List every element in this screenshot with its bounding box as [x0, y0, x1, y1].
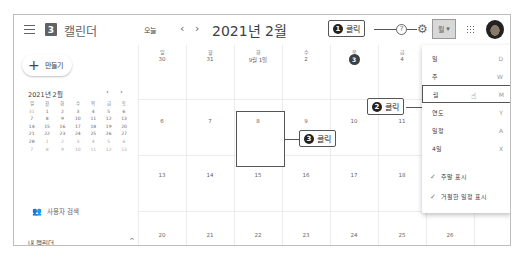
mini-day[interactable]: 7: [24, 115, 39, 123]
mini-day[interactable]: 26: [101, 130, 116, 138]
mini-weekday: 일: [24, 100, 39, 108]
menu-item-day[interactable]: 일 D: [422, 49, 511, 67]
search-people-button[interactable]: 👥 사용자 검색: [32, 206, 79, 216]
check-icon: ✓: [430, 193, 436, 201]
mini-day[interactable]: 5: [101, 108, 116, 116]
date-cell[interactable]: 7: [186, 118, 234, 124]
mini-day[interactable]: 9: [55, 115, 70, 123]
date-cell[interactable]: 18: [378, 172, 426, 178]
date-cell[interactable]: 8: [234, 118, 282, 124]
date-cell[interactable]: 23: [282, 232, 330, 238]
calendar-window: 3 캘린더 오늘 ‹ › 2021년 2월 1 클릭 ? ⚙ 월 ▾ + 만들기…: [13, 14, 511, 246]
mini-day[interactable]: 23: [55, 130, 70, 138]
show-declined-toggle[interactable]: ✓ 거절한 일정 표시: [430, 192, 511, 201]
date-cell[interactable]: 15: [234, 172, 282, 178]
date-cell[interactable]: 20: [138, 232, 186, 238]
create-button[interactable]: + 만들기: [22, 54, 72, 76]
help-icon[interactable]: ?: [396, 24, 407, 35]
menu-item-schedule[interactable]: 일정 A: [422, 121, 511, 139]
mini-day[interactable]: 4: [86, 108, 101, 116]
mini-day[interactable]: 19: [101, 123, 116, 131]
mini-day[interactable]: 20: [116, 123, 131, 131]
mini-day[interactable]: 27: [116, 130, 131, 138]
mini-day[interactable]: 6: [116, 138, 131, 146]
date-cell[interactable]: 21: [186, 232, 234, 238]
next-period-button[interactable]: ›: [195, 22, 199, 35]
mini-day[interactable]: 3: [70, 108, 85, 116]
mini-day[interactable]: 17: [70, 123, 85, 131]
mini-day[interactable]: 11: [86, 146, 101, 154]
callout-label: 클릭: [346, 23, 360, 34]
mini-day[interactable]: 28: [24, 138, 39, 146]
mini-day[interactable]: 12: [101, 146, 116, 154]
menu-item-week[interactable]: 주 W: [422, 67, 511, 85]
my-calendars-header[interactable]: 내 캘린더: [28, 238, 54, 246]
menu-item-4days[interactable]: 4일 X: [422, 139, 511, 157]
menu-item-month[interactable]: 월 ☝ M: [422, 85, 511, 103]
date-cell[interactable]: 4: [378, 56, 426, 62]
mini-day[interactable]: 8: [39, 146, 54, 154]
mini-day[interactable]: 13: [116, 115, 131, 123]
hamburger-menu-icon[interactable]: [24, 25, 35, 34]
date-cell[interactable]: 13: [138, 172, 186, 178]
prev-period-button[interactable]: ‹: [180, 22, 184, 35]
mini-day[interactable]: 1: [39, 108, 54, 116]
date-cell[interactable]: 30: [138, 56, 186, 62]
mini-day[interactable]: 24: [70, 130, 85, 138]
mini-next-button[interactable]: ›: [120, 88, 123, 96]
mini-day[interactable]: 4: [86, 138, 101, 146]
mini-day[interactable]: 8: [39, 115, 54, 123]
mini-day[interactable]: 10: [70, 115, 85, 123]
mini-day[interactable]: 15: [39, 123, 54, 131]
today-button[interactable]: 오늘: [144, 25, 156, 35]
mini-day[interactable]: 12: [101, 115, 116, 123]
menu-item-label: 연도: [432, 108, 444, 117]
menu-item-year[interactable]: 연도 Y: [422, 103, 511, 121]
mini-day[interactable]: 2: [55, 138, 70, 146]
mini-day[interactable]: 2: [55, 108, 70, 116]
search-people-label: 사용자 검색: [47, 206, 79, 216]
date-cell[interactable]: 24: [330, 232, 378, 238]
mini-day[interactable]: 6: [116, 108, 131, 116]
mini-day[interactable]: 14: [24, 123, 39, 131]
mini-day[interactable]: 22: [39, 130, 54, 138]
view-select-dropdown[interactable]: 월 ▾: [432, 19, 456, 39]
date-cell[interactable]: 2: [282, 56, 330, 62]
mini-day[interactable]: 18: [86, 123, 101, 131]
date-cell[interactable]: 6: [138, 118, 186, 124]
mini-day[interactable]: 11: [86, 115, 101, 123]
date-cell[interactable]: 16: [282, 172, 330, 178]
date-cell[interactable]: 9월 1일: [234, 56, 282, 64]
avatar[interactable]: [486, 20, 504, 39]
mini-day[interactable]: 5: [101, 138, 116, 146]
date-cell[interactable]: 25: [378, 232, 426, 238]
date-cell[interactable]: 31: [186, 56, 234, 62]
chevron-up-icon[interactable]: ^: [129, 237, 135, 245]
mini-day[interactable]: 16: [55, 123, 70, 131]
date-cell[interactable]: 22: [234, 232, 282, 238]
weekday-header: 수: [282, 48, 330, 55]
mini-day[interactable]: 21: [24, 130, 39, 138]
show-weekends-toggle[interactable]: ✓ 주말 표시: [430, 172, 511, 181]
mini-day[interactable]: 9: [55, 146, 70, 154]
date-cell[interactable]: 9: [282, 118, 330, 124]
mini-day[interactable]: 13: [116, 146, 131, 154]
date-cell[interactable]: 11: [378, 118, 426, 124]
mini-day[interactable]: 3: [70, 138, 85, 146]
date-cell[interactable]: 10: [330, 118, 378, 124]
date-cell-today[interactable]: 3: [330, 54, 378, 65]
mini-day[interactable]: 7: [24, 146, 39, 154]
date-cell[interactable]: 14: [186, 172, 234, 178]
apps-grid-icon[interactable]: [466, 25, 475, 34]
mini-day[interactable]: 1: [39, 138, 54, 146]
mini-prev-button[interactable]: ‹: [106, 88, 109, 96]
date-cell[interactable]: 26: [426, 232, 474, 238]
date-cell[interactable]: 17: [330, 172, 378, 178]
callout-label: 클릭: [385, 101, 399, 112]
step-number: 2: [372, 102, 382, 112]
mini-day[interactable]: 31: [24, 108, 39, 116]
shortcut-key: M: [499, 91, 504, 98]
gear-icon[interactable]: ⚙: [417, 22, 428, 36]
mini-day[interactable]: 25: [86, 130, 101, 138]
mini-day[interactable]: 10: [70, 146, 85, 154]
